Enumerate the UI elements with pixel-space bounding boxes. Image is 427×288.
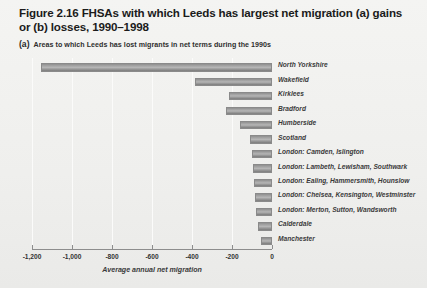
bar-category-label: London: Lambeth, Lewisham, Southwark <box>278 163 407 170</box>
bar <box>261 237 272 245</box>
axis-tick <box>152 245 153 249</box>
bar <box>254 179 272 187</box>
bar <box>229 92 272 100</box>
bar <box>255 193 272 201</box>
panel-caption: Areas to which Leeds has lost migrants i… <box>34 41 272 49</box>
axis-tick <box>192 245 193 249</box>
bar-row: London: Chelsea, Kensington, Westminster <box>32 190 272 206</box>
bar-row: London: Camden, Islington <box>32 147 272 163</box>
panel-tag: (a) <box>19 39 30 49</box>
x-axis-label: Average annual net migration <box>32 266 272 274</box>
axis-tick-label: -1,000 <box>63 253 82 260</box>
bar <box>226 107 272 115</box>
bar-category-label: London: Chelsea, Kensington, Westminster <box>278 191 415 198</box>
bar <box>253 164 272 172</box>
plot-area: North YorkshireWakefieldKirkleesBradford… <box>32 58 272 246</box>
figure-title: Figure 2.16 FHSAs with which Leeds has l… <box>19 6 414 34</box>
bar <box>258 222 272 230</box>
bar <box>250 135 272 143</box>
bar-category-label: North Yorkshire <box>278 61 328 68</box>
bar <box>195 78 272 86</box>
bar-category-label: London: Camden, Islington <box>278 148 364 155</box>
axis-tick-label: 0 <box>270 253 274 260</box>
bar-category-label: Bradford <box>278 105 306 112</box>
axis-tick-label: -200 <box>225 253 238 260</box>
axis-tick-label: -1,200 <box>23 253 42 260</box>
axis-tick <box>232 245 233 249</box>
bar-category-label: Kirklees <box>278 90 304 97</box>
bar-row: Calderdale <box>32 219 272 235</box>
bar-row: North Yorkshire <box>32 60 272 76</box>
bar-category-label: London: Merton, Sutton, Wandsworth <box>278 206 397 213</box>
bar <box>240 121 272 129</box>
axis-tick <box>112 245 113 249</box>
x-axis <box>32 249 272 250</box>
bar-category-label: London: Ealing, Hammersmith, Hounslow <box>278 177 410 184</box>
bar-row: London: Merton, Sutton, Wandsworth <box>32 205 272 221</box>
bar <box>252 150 272 158</box>
axis-tick-label: -800 <box>105 253 118 260</box>
figure-container: Figure 2.16 FHSAs with which Leeds has l… <box>0 0 427 288</box>
bar <box>41 63 272 71</box>
axis-tick <box>32 245 33 249</box>
bar <box>256 208 272 216</box>
bar-category-label: Humberside <box>278 119 316 126</box>
axis-tick <box>72 245 73 249</box>
bar-category-label: Scotland <box>278 134 306 141</box>
bar-row: Bradford <box>32 103 272 119</box>
bar-category-label: Calderdale <box>278 220 312 227</box>
axis-tick-label: -600 <box>145 253 158 260</box>
axis-tick-label: -400 <box>185 253 198 260</box>
bar-row: Kirklees <box>32 89 272 105</box>
bar-row: Humberside <box>32 118 272 134</box>
bar-row: Wakefield <box>32 74 272 90</box>
bar-row: Scotland <box>32 132 272 148</box>
axis-tick <box>272 245 273 249</box>
panel-subtitle: (a) Areas to which Leeds has lost migran… <box>19 39 271 49</box>
bar-row: London: Ealing, Hammersmith, Hounslow <box>32 176 272 192</box>
bar-category-label: Wakefield <box>278 76 309 83</box>
bar-row: London: Lambeth, Lewisham, Southwark <box>32 161 272 177</box>
bar-category-label: Manchester <box>278 235 315 242</box>
